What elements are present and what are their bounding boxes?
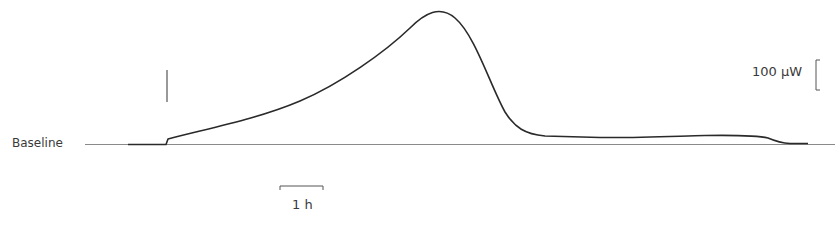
time-scale-label: 1 h	[292, 197, 313, 212]
baseline-label: Baseline	[12, 136, 63, 150]
thermogram-plot	[0, 0, 840, 226]
power-scale-label: 100 µW	[752, 64, 802, 79]
thermogram-trace	[128, 11, 808, 144]
time-scale-bar	[280, 186, 323, 190]
power-scale-bar	[816, 60, 820, 90]
